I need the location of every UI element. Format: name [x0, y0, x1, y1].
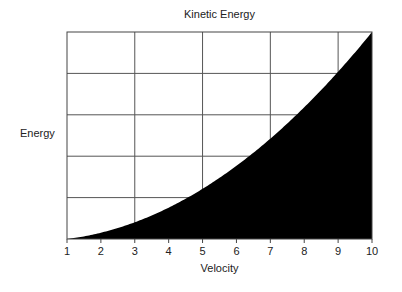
- energy-area: [67, 32, 372, 239]
- x-tick-marks: [67, 239, 372, 243]
- plot-area: [0, 0, 402, 292]
